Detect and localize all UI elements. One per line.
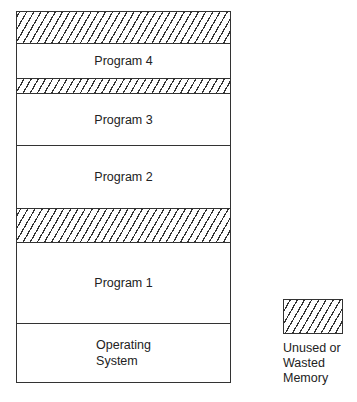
program-4-block: Program 4 — [17, 44, 230, 78]
unused-memory-block-lower — [17, 208, 230, 243]
unused-memory-block-middle — [17, 78, 230, 94]
operating-system-label: Operating System — [96, 337, 151, 369]
unused-memory-block-top — [17, 12, 230, 44]
legend-hatch-swatch — [283, 299, 343, 334]
operating-system-block: Operating System — [17, 323, 230, 382]
program-4-label: Program 4 — [94, 53, 152, 69]
program-3-block: Program 3 — [17, 94, 230, 145]
program-1-block: Program 1 — [17, 243, 230, 323]
program-3-label: Program 3 — [94, 112, 152, 128]
program-2-block: Program 2 — [17, 145, 230, 208]
memory-layout: Program 4 Program 3 Program 2 Program 1 … — [16, 11, 231, 383]
legend-label: Unused or Wasted Memory — [283, 341, 341, 386]
program-1-label: Program 1 — [94, 275, 152, 291]
program-2-label: Program 2 — [94, 169, 152, 185]
